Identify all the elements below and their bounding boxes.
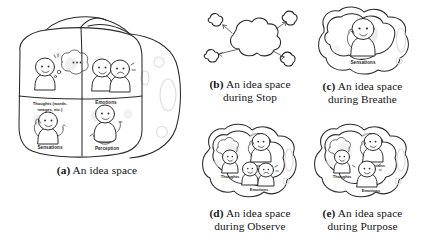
caption-text-e-line1: An idea space	[338, 207, 403, 219]
blob-label-emotions-e: Emotions	[362, 188, 381, 193]
caption-text-a: An idea space	[73, 164, 138, 176]
quadrant-label-sensations: Sensations	[37, 145, 62, 150]
blob-triple-illustration-e: Thoughts Sensations	[306, 120, 419, 206]
figure-panel-e: Thoughts Sensations	[306, 120, 419, 234]
quadrant-emotions-art	[92, 59, 136, 92]
blob-label-thoughts-e: Thoughts	[333, 174, 352, 179]
figure-panel-c: Sensations (c) An idea space during Brea…	[306, 4, 419, 107]
caption-b: (b) An idea space during Stop	[196, 78, 304, 105]
idea-space-cube-illustration: Thoughts (words, images, etc.) Emotions	[2, 10, 192, 160]
figure-root: Thoughts (words, images, etc.) Emotions	[0, 0, 421, 243]
caption-text-d-line2: during Observe	[196, 220, 304, 233]
caption-text-b-line2: during Stop	[196, 91, 304, 104]
quadrant-label-emotions: Emotions	[95, 100, 117, 105]
thoughts-cluster-art-d	[217, 137, 239, 173]
caption-e: (e) An idea space during Purpose	[306, 207, 419, 234]
caption-text-b-line1: An idea space	[226, 78, 291, 90]
blob-label-emotions-d: Emotions	[250, 187, 269, 192]
blob-triple-illustration-d: Thoughts Sensations	[196, 120, 304, 206]
quadrant-label-perception: Perception	[95, 146, 119, 151]
caption-d: (d) An idea space during Observe	[196, 207, 304, 234]
blob-label-sensations-c: Sensations	[350, 60, 375, 65]
caption-tag-a: (a)	[57, 164, 70, 176]
caption-text-c-line2: during Breathe	[306, 93, 419, 106]
caption-tag-e: (e)	[323, 207, 336, 219]
caption-tag-d: (d)	[209, 207, 223, 219]
emotions-cluster-art-d	[242, 162, 279, 186]
cloud-scatter-illustration	[196, 4, 304, 76]
quadrant-label-thoughts-line1: Thoughts (words,	[33, 101, 67, 106]
blob-single-illustration: Sensations	[306, 4, 419, 80]
figure-panel-b: (b) An idea space during Stop	[196, 4, 304, 105]
caption-c: (c) An idea space during Breathe	[306, 80, 419, 107]
caption-text-e-line2: during Purpose	[306, 220, 419, 233]
quadrant-label-thoughts-line2: images, etc.)	[38, 107, 63, 112]
caption-a: (a) An idea space	[2, 164, 192, 177]
thoughts-cluster-art-e	[329, 137, 351, 173]
caption-text-d-line1: An idea space	[226, 207, 291, 219]
caption-tag-c: (c)	[323, 80, 336, 92]
figure-panel-a: Thoughts (words, images, etc.) Emotions	[2, 10, 192, 177]
caption-text-c-line1: An idea space	[338, 80, 403, 92]
caption-tag-b: (b)	[209, 78, 223, 90]
blob-label-thoughts-d: Thoughts	[221, 174, 240, 179]
figure-panel-d: Thoughts Sensations	[196, 120, 304, 234]
